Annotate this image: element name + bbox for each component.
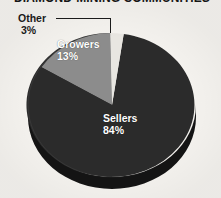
slice-value-sellers: 84%: [103, 125, 124, 136]
other-leader-line-vertical: [110, 18, 111, 33]
slice-label-growers: Growers: [57, 39, 100, 50]
slice-label-sellers: Sellers: [103, 113, 137, 124]
other-leader-line-horizontal: [56, 18, 111, 19]
slice-label-other: Other: [18, 13, 46, 24]
pie-chart-figure: DIAMOND-MINING COMMUNITIES Other 3% Grow…: [0, 0, 221, 198]
slice-value-other: 3%: [21, 25, 36, 36]
slice-value-growers: 13%: [57, 51, 78, 62]
